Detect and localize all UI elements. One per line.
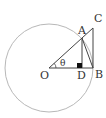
label-C: C	[94, 12, 102, 25]
angle-arc	[54, 63, 56, 68]
label-theta: θ	[60, 58, 65, 68]
segment-OC	[49, 28, 93, 68]
segment-AB	[82, 38, 93, 68]
label-O: O	[40, 69, 49, 82]
trig-diagram: O D B A C θ	[0, 0, 106, 118]
label-D: D	[77, 69, 86, 82]
label-A: A	[77, 24, 87, 37]
right-angle-marker	[77, 63, 82, 68]
label-B: B	[95, 68, 103, 81]
